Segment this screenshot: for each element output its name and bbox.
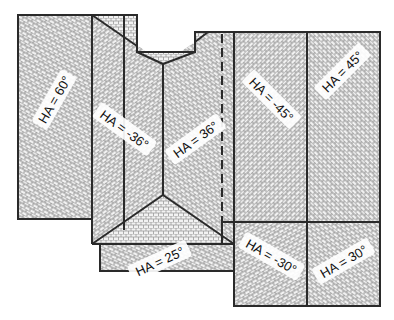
roof-plan-diagram: HA = 60° HA = -36° HA = 36° HA = 25° HA … — [0, 0, 394, 320]
roof-plane-east-upper-left — [234, 32, 307, 222]
roof-plane-west-wing — [18, 15, 92, 219]
